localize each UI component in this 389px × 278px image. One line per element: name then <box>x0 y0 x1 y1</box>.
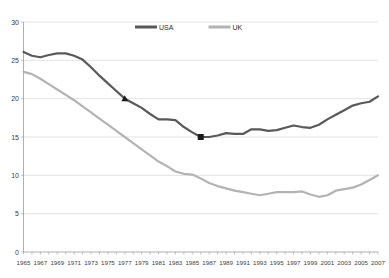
x-axis-label: 1999 <box>304 259 318 266</box>
y-axis-label: 0 <box>15 249 19 256</box>
x-axis-label: 1979 <box>135 259 149 266</box>
y-axis-label: 25 <box>11 57 19 64</box>
x-axis-label: 1985 <box>185 259 199 266</box>
x-axis-label: 1971 <box>67 259 81 266</box>
y-axis-label: 10 <box>11 172 19 179</box>
chart-canvas: 3025201510501965196719691971197319751977… <box>0 0 389 278</box>
x-axis-label: 1987 <box>202 259 216 266</box>
x-axis-label: 1977 <box>118 259 132 266</box>
x-axis-label: 1969 <box>50 259 64 266</box>
y-axis-label: 5 <box>15 210 19 217</box>
x-axis-label: 1997 <box>287 259 301 266</box>
x-axis-label: 1967 <box>33 259 47 266</box>
x-axis-label: 2003 <box>337 259 351 266</box>
x-axis-label: 2001 <box>320 259 334 266</box>
y-axis-label: 30 <box>11 19 19 26</box>
x-axis-label: 2005 <box>354 259 368 266</box>
x-axis-label: 1975 <box>101 259 115 266</box>
legend-label-uk: UK <box>233 24 243 31</box>
x-axis-label: 1993 <box>253 259 267 266</box>
legend-label-usa: USA <box>159 24 174 31</box>
data-marker-square <box>198 134 204 140</box>
x-axis-label: 1983 <box>169 259 183 266</box>
y-axis-label: 20 <box>11 95 19 102</box>
line-chart: 3025201510501965196719691971197319751977… <box>0 0 389 278</box>
x-axis-label: 1965 <box>17 259 31 266</box>
x-axis-label: 2007 <box>371 259 385 266</box>
x-axis-label: 1973 <box>84 259 98 266</box>
x-axis-label: 1989 <box>219 259 233 266</box>
x-axis-label: 1981 <box>152 259 166 266</box>
y-axis-label: 15 <box>11 134 19 141</box>
series-line-usa <box>24 52 379 137</box>
x-axis-label: 1991 <box>236 259 250 266</box>
x-axis-label: 1995 <box>270 259 284 266</box>
